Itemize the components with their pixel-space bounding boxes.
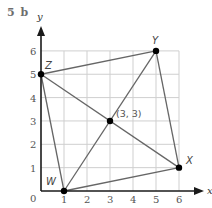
x-tick-label: 4 [130,194,136,205]
y-axis-label: y [36,11,43,22]
segment-zw [41,74,64,191]
origin-label: 0 [30,193,36,204]
y-tick-label: 6 [30,46,36,57]
y-tick-label: 4 [30,93,36,104]
point-w [61,188,67,194]
x-tick-label: 1 [61,194,67,205]
point-label-w: W [46,176,57,187]
segment-xy [156,51,179,168]
y-tick-label: 3 [30,116,36,127]
x-tick-label: 5 [153,194,159,205]
x-tick-label: 6 [176,194,182,205]
segment-wx [64,168,179,191]
point-label-z: Z [44,60,53,71]
y-axis-arrow-icon [37,26,45,36]
point-y [153,48,159,54]
x-tick-label: 3 [107,194,113,205]
question-label: 5 b [7,6,29,19]
x-tick-label: 2 [84,194,90,205]
x-axis-label: x [207,185,212,196]
point-m [107,118,113,124]
point-label-y: Y [152,35,159,46]
point-label-x: X [185,155,194,166]
midpoint-label: (3, 3) [116,108,142,119]
segment-yz [41,51,156,74]
y-tick-label: 5 [30,69,36,80]
point-z [38,71,44,77]
y-tick-label: 1 [30,163,36,174]
y-tick-label: 2 [30,139,36,150]
x-axis-arrow-icon [194,187,204,195]
quadrilateral-diagram: 5 b 123456123456 x y 0 W X Y Z (3, 3) [0,0,212,208]
coordinate-plane: 123456123456 x y 0 W X Y Z (3, 3) [0,0,212,208]
point-x [176,164,182,170]
